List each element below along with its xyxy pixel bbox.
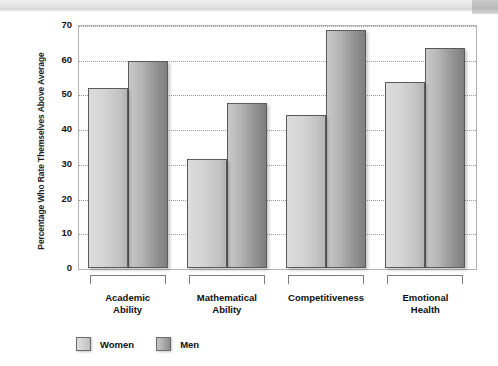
category-label-3: EmotionalHealth: [376, 292, 475, 316]
category-label-line: Mathematical: [177, 292, 276, 304]
x-axis-category-labels: AcademicAbilityMathematicalAbilityCompet…: [78, 292, 475, 326]
bar-women-0: [88, 88, 128, 269]
legend-label: Men: [180, 339, 199, 350]
category-bracket-3: [387, 275, 463, 284]
y-axis-tick-labels: 706050403020100: [44, 25, 72, 268]
category-label-2: Competitiveness: [277, 292, 376, 304]
category-label-line: Ability: [78, 304, 177, 316]
category-label-line: Ability: [177, 304, 276, 316]
category-bracket-1: [189, 275, 265, 284]
y-tick-label-70: 70: [44, 20, 72, 30]
category-bracket-0: [90, 275, 166, 284]
bar-women-1: [187, 159, 227, 268]
bars-layer: [78, 25, 475, 268]
category-label-line: Competitiveness: [277, 292, 376, 304]
bar-chart-figure: Percentage Who Rate Themselves Above Ave…: [0, 0, 498, 366]
bar-men-2: [326, 30, 366, 268]
category-label-line: Academic: [78, 292, 177, 304]
y-tick-label-50: 50: [44, 89, 72, 99]
bar-women-3: [385, 82, 425, 268]
category-label-0: AcademicAbility: [78, 292, 177, 316]
bar-men-0: [128, 61, 168, 268]
category-label-1: MathematicalAbility: [177, 292, 276, 316]
y-tick-label-20: 20: [44, 194, 72, 204]
legend-swatch-icon-men: [156, 337, 171, 351]
legend-entry-women[interactable]: Women: [76, 337, 134, 351]
category-bracket-2: [288, 275, 364, 284]
legend-entry-men[interactable]: Men: [156, 337, 199, 351]
legend-label: Women: [100, 339, 134, 350]
chart-legend: WomenMen: [76, 335, 221, 353]
bar-men-1: [227, 103, 267, 268]
category-brackets: [78, 275, 475, 287]
y-tick-label-0: 0: [44, 263, 72, 273]
legend-swatch-icon-women: [76, 337, 91, 351]
category-label-line: Health: [376, 304, 475, 316]
y-tick-label-40: 40: [44, 124, 72, 134]
y-tick-label-10: 10: [44, 228, 72, 238]
bar-women-2: [286, 115, 326, 268]
y-tick-label-30: 30: [44, 159, 72, 169]
y-tick-label-60: 60: [44, 55, 72, 65]
bar-men-3: [425, 48, 465, 268]
category-label-line: Emotional: [376, 292, 475, 304]
